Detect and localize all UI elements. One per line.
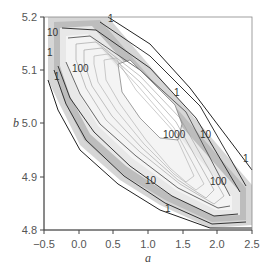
- x-axis-title: a: [145, 251, 151, 265]
- contour-label: 1000: [163, 129, 186, 140]
- y-axis-tick-labels: 5.2 5.1 5.0 4.9 4.8: [22, 11, 37, 236]
- y-tick-label: 4.9: [22, 171, 37, 183]
- contour-label: 100: [210, 176, 227, 187]
- contour-label: 1: [243, 153, 249, 164]
- contour-label: 10: [145, 175, 157, 186]
- x-tick-label: 2.5: [244, 238, 259, 250]
- x-tick-label: 1.5: [175, 238, 190, 250]
- y-tick-label: 5.2: [22, 11, 37, 23]
- x-tick-label: −0.5: [33, 238, 55, 250]
- contour-label: 1: [47, 47, 53, 58]
- y-tick-label: 5.0: [22, 117, 37, 129]
- x-tick-label: 1.0: [140, 238, 155, 250]
- y-tick-label: 4.8: [22, 224, 37, 236]
- contour-label: 100: [72, 63, 89, 74]
- y-axis-ticks: [40, 17, 44, 230]
- contour-label: 1: [165, 203, 171, 214]
- contour-label: 1: [174, 87, 180, 98]
- x-axis-tick-labels: −0.5 0.0 0.5 1.0 1.5 2.0 2.5: [33, 238, 260, 250]
- contour-label: 1: [108, 13, 114, 24]
- contour-label: 10: [200, 129, 212, 140]
- x-axis-ticks: [44, 230, 252, 234]
- contour-bands: [48, 17, 252, 228]
- x-tick-label: 0.0: [71, 238, 86, 250]
- contour-label: 1: [54, 71, 60, 82]
- y-tick-label: 5.1: [22, 64, 37, 76]
- x-tick-label: 0.5: [105, 238, 120, 250]
- y-axis-title: b: [13, 116, 19, 130]
- x-tick-label: 2.0: [209, 238, 224, 250]
- contour-label: 10: [47, 27, 59, 38]
- contour-chart: 1 10 1 1 100 1 1000 10 1 100 10 1 5.2 5.…: [0, 0, 269, 275]
